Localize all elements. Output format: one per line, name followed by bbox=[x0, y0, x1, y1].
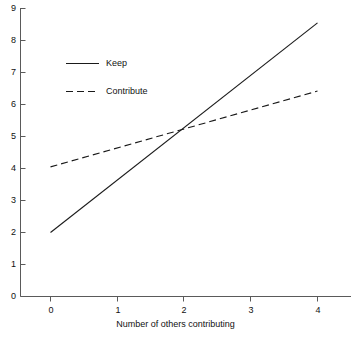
x-tick-label-2: 2 bbox=[174, 306, 194, 315]
x-axis-ticks bbox=[51, 297, 318, 302]
series-line-keep bbox=[51, 23, 318, 233]
y-tick-label-1: 1 bbox=[2, 260, 16, 269]
x-tick-label-0: 0 bbox=[41, 306, 61, 315]
y-tick-label-2: 2 bbox=[2, 228, 16, 237]
y-tick-label-6: 6 bbox=[2, 100, 16, 109]
x-tick-label-4: 4 bbox=[308, 306, 328, 315]
chart-figure: 9 8 7 6 5 4 3 2 1 0 0 1 2 3 4 Keep Contr… bbox=[0, 0, 351, 338]
y-tick-label-5: 5 bbox=[2, 132, 16, 141]
x-tick-label-3: 3 bbox=[241, 306, 261, 315]
y-tick-label-9: 9 bbox=[2, 4, 16, 13]
series-line-contribute bbox=[51, 91, 318, 167]
x-tick-label-1: 1 bbox=[108, 306, 128, 315]
y-tick-label-3: 3 bbox=[2, 196, 16, 205]
y-tick-label-7: 7 bbox=[2, 68, 16, 77]
plot-area bbox=[0, 0, 351, 338]
y-tick-label-0: 0 bbox=[2, 292, 16, 301]
legend-label-contribute: Contribute bbox=[106, 87, 148, 96]
y-axis-ticks bbox=[21, 9, 26, 297]
y-tick-label-4: 4 bbox=[2, 164, 16, 173]
x-axis-title: Number of others contributing bbox=[0, 320, 351, 329]
y-tick-label-8: 8 bbox=[2, 36, 16, 45]
legend-label-keep: Keep bbox=[106, 59, 127, 68]
